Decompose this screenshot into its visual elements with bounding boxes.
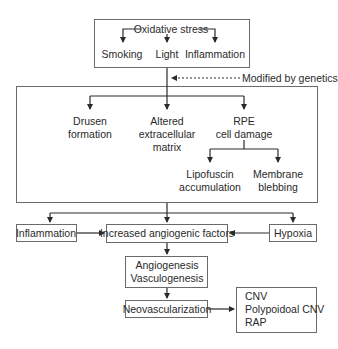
lipofuscin-label-1: Lipofuscin bbox=[186, 168, 233, 181]
membrane-label-2: blebbing bbox=[258, 181, 298, 194]
polypoidal-cnv-label: Polypoidoal CNV bbox=[245, 303, 324, 316]
angiogenesis-label: Angiogenesis bbox=[135, 259, 198, 272]
lipofuscin-label-2: accumulation bbox=[179, 181, 241, 194]
ecm-label-3: matrix bbox=[153, 141, 182, 154]
cnv-label: CNV bbox=[245, 290, 267, 303]
inflammation-cause-label: Inflammation bbox=[185, 48, 245, 61]
inflammation-label: Inflammation bbox=[16, 227, 76, 240]
drusen-label-2: formation bbox=[68, 128, 112, 141]
drusen-label-1: Drusen bbox=[73, 115, 107, 128]
modified-by-genetics-label: Modified by genetics bbox=[242, 72, 338, 85]
ecm-label-2: extracellular bbox=[139, 128, 196, 141]
light-label: Light bbox=[156, 48, 179, 61]
neovascularization-label: Neovascularization bbox=[123, 303, 212, 316]
ecm-label-1: Altered bbox=[150, 115, 183, 128]
oxidative-stress-label: Oxidative stress bbox=[134, 23, 209, 36]
vasculogenesis-label: Vasculogenesis bbox=[131, 272, 204, 285]
angiogenic-factors-label: Increased angiogenic factors bbox=[100, 227, 234, 240]
rpe-label-1: RPE bbox=[233, 115, 255, 128]
rap-label: RAP bbox=[245, 316, 267, 329]
smoking-label: Smoking bbox=[102, 48, 143, 61]
membrane-label-1: Membrane bbox=[253, 168, 303, 181]
rpe-label-2: cell damage bbox=[216, 128, 273, 141]
hypoxia-label: Hypoxia bbox=[274, 227, 312, 240]
